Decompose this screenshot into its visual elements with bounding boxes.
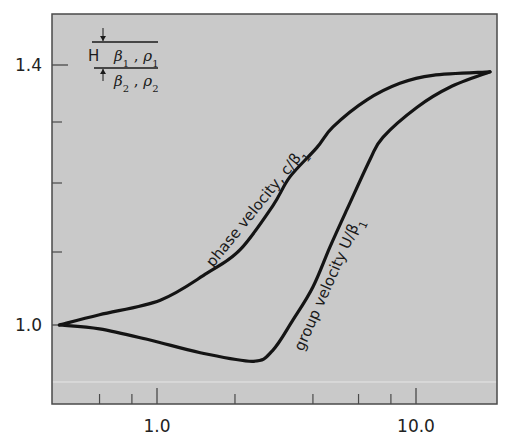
y-axis-tick-labels: 1.01.4: [15, 55, 42, 335]
x-tick-label: 10.0: [397, 416, 435, 436]
thickness-label-H: H: [88, 47, 99, 65]
x-tick-label: 1.0: [143, 416, 170, 436]
dispersion-chart: 1.010.0 1.01.4 phase velocity, c/β1 grou…: [0, 0, 517, 448]
x-axis-tick-labels: 1.010.0: [143, 416, 434, 436]
y-tick-label: 1.4: [15, 55, 42, 75]
y-tick-label: 1.0: [15, 315, 42, 335]
